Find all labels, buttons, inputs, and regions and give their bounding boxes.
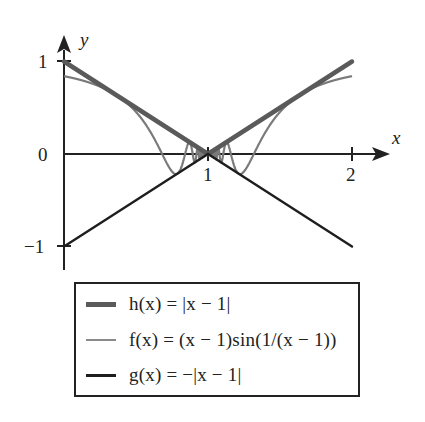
legend-item-g: g(x) = −|x − 1| [86,360,241,390]
legend-swatch-g [86,374,116,377]
x-tick-label-2: 2 [346,164,356,185]
x-axis-label: x [391,127,401,148]
legend-label-h: h(x) = |x − 1| [129,293,231,315]
x-tick-label-1: 1 [203,164,213,185]
y-axis-label: y [78,29,89,50]
legend-swatch-f [86,339,116,341]
legend-item-f: f(x) = (x − 1)sin(1/(x − 1)) [86,325,337,355]
y-tick-label-minus-1: −1 [24,236,44,257]
y-tick-label-0: 0 [38,144,48,165]
legend-swatch-h [86,302,116,307]
y-tick-label-1: 1 [38,51,48,72]
legend-label-g: g(x) = −|x − 1| [129,364,241,386]
legend-item-h: h(x) = |x − 1| [86,289,231,319]
legend-label-f: f(x) = (x − 1)sin(1/(x − 1)) [129,329,337,351]
series-h-abs-line [64,62,352,155]
legend: h(x) = |x − 1| f(x) = (x − 1)sin(1/(x − … [74,282,360,397]
